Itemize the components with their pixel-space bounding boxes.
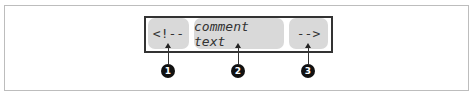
leader-line-3 [308, 47, 309, 64]
callout-2: 2 [231, 64, 245, 78]
callout-3: 3 [301, 64, 315, 78]
callout-1: 1 [161, 64, 175, 78]
leader-line-1 [168, 47, 169, 64]
leader-line-2 [238, 47, 239, 64]
